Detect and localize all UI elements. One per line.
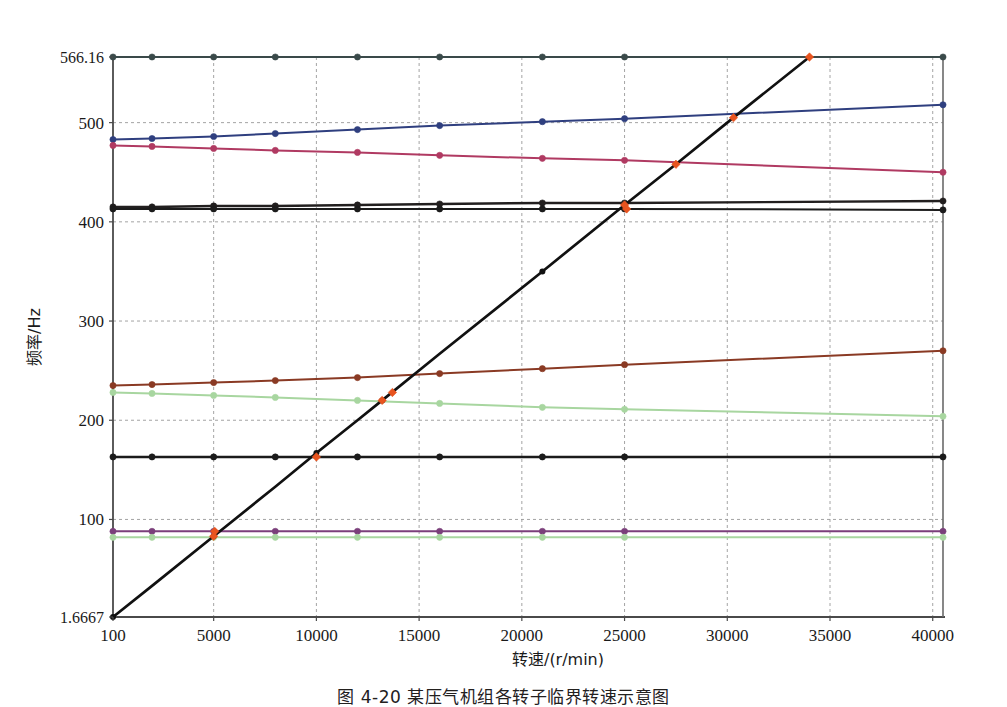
data-point-marker [211, 54, 217, 60]
series-line [113, 145, 943, 172]
data-point-marker [621, 528, 627, 534]
y-axis-title: 频率/Hz [25, 308, 44, 366]
y-tick-label: 500 [79, 114, 105, 133]
data-point-marker [437, 534, 443, 540]
data-point-marker [621, 116, 627, 122]
series-5 [110, 348, 946, 389]
data-point-marker [272, 147, 278, 153]
data-point-marker [272, 206, 278, 212]
data-point-marker [110, 389, 116, 395]
x-tick-label: 100 [100, 626, 126, 645]
x-tick-label: 20000 [501, 626, 544, 645]
x-axis-title: 转速/(r/min) [512, 650, 604, 669]
y-tick-label: 100 [79, 510, 105, 529]
x-tick-label: 25000 [603, 626, 646, 645]
series-7 [110, 454, 946, 460]
data-point-marker [149, 206, 155, 212]
data-point-marker [621, 406, 627, 412]
grid-lines [113, 57, 943, 617]
data-point-marker [539, 534, 545, 540]
x-tick-label: 5000 [197, 626, 231, 645]
y-tick-label: 200 [79, 411, 105, 430]
data-point-marker [539, 206, 545, 212]
y-tick-label: 400 [79, 213, 105, 232]
data-point-marker [354, 534, 360, 540]
data-point-marker [940, 534, 946, 540]
data-point-marker [437, 123, 443, 129]
data-point-marker [437, 454, 443, 460]
data-point-marker [354, 397, 360, 403]
data-point-marker [110, 142, 116, 148]
data-point-marker [437, 400, 443, 406]
series-group [110, 54, 946, 541]
data-point-marker [272, 394, 278, 400]
speed-line-marker [539, 268, 545, 274]
data-point-marker [621, 454, 627, 460]
data-point-marker [539, 454, 545, 460]
data-point-marker [940, 528, 946, 534]
axes [113, 55, 945, 617]
data-point-marker [940, 454, 946, 460]
data-point-marker [940, 54, 946, 60]
data-point-marker [354, 528, 360, 534]
series-line [113, 105, 943, 140]
data-point-marker [149, 534, 155, 540]
data-point-marker [539, 54, 545, 60]
data-point-marker [149, 54, 155, 60]
data-point-marker [621, 54, 627, 60]
figure-container: 1005000100001500020000250003000035000400… [0, 0, 1007, 707]
data-point-marker [437, 206, 443, 212]
data-point-marker [110, 206, 116, 212]
data-point-marker [211, 145, 217, 151]
data-point-marker [354, 149, 360, 155]
data-point-marker [110, 382, 116, 388]
series-2 [110, 142, 946, 175]
x-tick-label: 35000 [809, 626, 852, 645]
data-point-marker [272, 454, 278, 460]
x-tick-label: 40000 [911, 626, 954, 645]
data-point-marker [149, 390, 155, 396]
data-point-marker [149, 381, 155, 387]
data-point-marker [940, 102, 946, 108]
data-point-marker [272, 528, 278, 534]
y-tick-label: 1.6667 [60, 609, 104, 626]
data-point-marker [354, 54, 360, 60]
data-point-marker [272, 130, 278, 136]
data-point-marker [621, 157, 627, 163]
data-point-marker [539, 366, 545, 372]
series-1 [110, 102, 946, 143]
data-point-marker [110, 454, 116, 460]
data-point-marker [211, 379, 217, 385]
data-point-marker [539, 528, 545, 534]
data-point-marker [149, 454, 155, 460]
data-point-marker [110, 528, 116, 534]
data-point-marker [621, 534, 627, 540]
data-point-marker [354, 454, 360, 460]
data-point-marker [211, 392, 217, 398]
figure-caption: 图 4-20 某压气机组各转子临界转速示意图 [0, 684, 1007, 707]
data-point-marker [211, 133, 217, 139]
data-point-marker [621, 362, 627, 368]
data-point-marker [940, 198, 946, 204]
series-8 [110, 528, 946, 534]
data-point-marker [539, 200, 545, 206]
series-line [113, 351, 943, 386]
series-line [113, 209, 943, 210]
y-tick-label: 300 [79, 312, 105, 331]
data-point-marker [940, 348, 946, 354]
data-point-marker [437, 528, 443, 534]
data-point-marker [272, 534, 278, 540]
data-point-marker [354, 374, 360, 380]
data-point-marker [539, 155, 545, 161]
data-point-marker [539, 119, 545, 125]
data-point-marker [110, 136, 116, 142]
data-point-marker [940, 207, 946, 213]
series-0 [110, 54, 946, 60]
critical-speed-chart: 1005000100001500020000250003000035000400… [0, 0, 1007, 707]
data-point-marker [211, 454, 217, 460]
data-point-marker [539, 404, 545, 410]
x-tick-label: 15000 [398, 626, 441, 645]
data-point-marker [437, 371, 443, 377]
data-point-marker [940, 413, 946, 419]
data-point-marker [940, 169, 946, 175]
